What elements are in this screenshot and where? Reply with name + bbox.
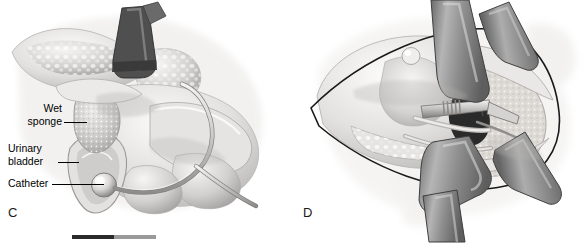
label-catheter: Catheter [8,177,48,190]
panel-d-illustration [293,0,587,243]
panel-d: D [293,0,587,243]
label-urinary-bladder-line1: Urinary [8,142,43,155]
panel-letter-d: D [303,206,313,219]
label-urinary-bladder: Urinary bladder [8,142,43,167]
scale-bar-light-segment [114,235,156,239]
scale-bar [72,235,156,239]
label-urinary-bladder-line2: bladder [8,155,43,168]
label-wet-sponge: Wet sponge [0,102,62,127]
panel-letter-c: C [8,206,18,219]
tissue-nodule [402,48,420,65]
leader-line-wet-sponge [64,122,87,123]
leader-line-catheter [52,184,104,185]
scale-bar-dark-segment [72,235,114,239]
figure-root: C Wet sponge Urinary bladder Catheter [0,0,587,243]
label-wet-sponge-line2: sponge [0,115,62,128]
label-catheter-line1: Catheter [8,177,48,190]
catheter-balloon [92,173,117,197]
label-wet-sponge-line1: Wet [0,102,62,115]
panel-c: C Wet sponge Urinary bladder Catheter [0,0,293,243]
retractor-band-cuff [112,60,157,72]
leader-line-urinary-bladder [58,162,79,163]
retractor-band-bottom [423,190,465,242]
